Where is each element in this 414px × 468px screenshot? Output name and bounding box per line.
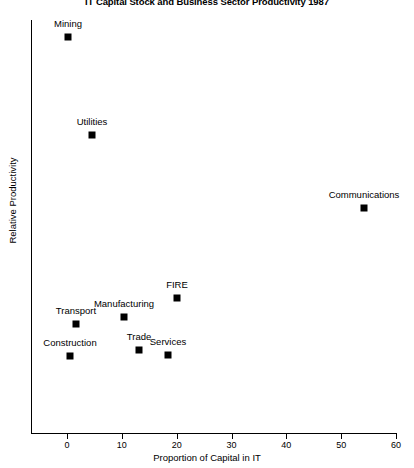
data-point-label: Utilities [77, 116, 108, 127]
scatter-chart: IT Capital Stock and Business Sector Pro… [0, 0, 414, 468]
data-point-label: Communications [329, 189, 400, 200]
data-point-marker [361, 205, 368, 212]
x-axis-tick-label: 10 [117, 440, 127, 450]
data-point-label: FIRE [166, 279, 188, 290]
x-axis-title: Proportion of Capital in IT [0, 452, 414, 463]
data-point-marker [165, 352, 172, 359]
data-point-marker [67, 353, 74, 360]
y-axis-title: Relative Productivity [7, 146, 18, 256]
x-axis-tick [286, 434, 287, 439]
data-point-label: Transport [56, 305, 96, 316]
data-point-marker [65, 34, 72, 41]
x-axis-tick-label: 40 [281, 440, 291, 450]
x-axis-tick [122, 434, 123, 439]
data-point-marker [89, 132, 96, 139]
data-point-label: Mining [54, 18, 82, 29]
data-point-label: Trade [127, 331, 151, 342]
data-point-label: Services [150, 336, 186, 347]
x-axis-tick-label: 0 [64, 440, 69, 450]
x-axis-tick-label: 60 [391, 440, 401, 450]
x-axis-tick [177, 434, 178, 439]
data-point-label: Construction [43, 337, 96, 348]
y-axis-line [31, 20, 32, 434]
x-axis-tick [67, 434, 68, 439]
data-point-marker [121, 314, 128, 321]
x-axis-tick-label: 30 [226, 440, 236, 450]
x-axis-tick-label: 50 [336, 440, 346, 450]
data-point-marker [73, 321, 80, 328]
data-point-label: Manufacturing [94, 298, 154, 309]
x-axis-tick [396, 434, 397, 439]
data-point-marker [174, 295, 181, 302]
x-axis-tick [232, 434, 233, 439]
data-point-marker [136, 347, 143, 354]
x-axis-tick-label: 20 [172, 440, 182, 450]
chart-title: IT Capital Stock and Business Sector Pro… [0, 0, 414, 7]
x-axis-tick [341, 434, 342, 439]
